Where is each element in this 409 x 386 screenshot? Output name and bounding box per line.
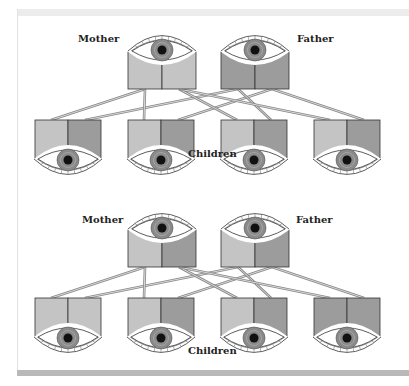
panel-2-child-2 bbox=[127, 298, 195, 352]
panel-1-child-1 bbox=[34, 120, 102, 174]
panel-1-mother-label: Mother bbox=[78, 33, 119, 44]
panel-1-children-label: Children bbox=[188, 148, 237, 159]
panel-1-mother bbox=[128, 36, 196, 89]
panel-2-child-4 bbox=[313, 298, 381, 352]
panel-2-father bbox=[221, 214, 289, 267]
panel-1-father bbox=[221, 36, 289, 89]
eye-color-inheritance-diagram bbox=[0, 0, 409, 386]
panel-1-father-label: Father bbox=[297, 33, 334, 44]
panel-1-child-2 bbox=[127, 120, 195, 174]
panel-2-mother bbox=[128, 214, 196, 267]
panel-2-mother-label: Mother bbox=[82, 214, 123, 225]
panel-2-children-label: Children bbox=[188, 345, 237, 356]
panel-1-child-4 bbox=[313, 120, 381, 174]
panel-2-father-label: Father bbox=[296, 214, 333, 225]
panel-2-child-1 bbox=[34, 298, 102, 352]
